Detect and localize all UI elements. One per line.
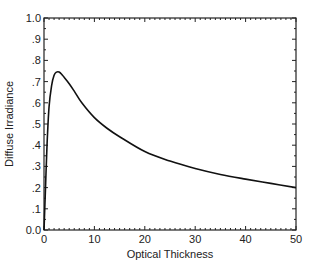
x-tick-label: 10 [88,233,100,245]
line-chart: 01020304050 0.0.1.2.3.4.5.6.7.8.91.0 Opt… [0,0,317,269]
y-tick-label: 0.0 [26,224,41,236]
y-tick-label: .2 [32,182,41,194]
y-tick-label: 1.0 [26,12,41,24]
x-tick-label: 50 [290,233,302,245]
x-tick-label: 30 [189,233,201,245]
y-axis-label: Diffuse Irradiance [3,81,15,167]
x-axis-label: Optical Thickness [127,248,214,260]
y-tick-label: .5 [32,118,41,130]
x-tick-label: 20 [139,233,151,245]
x-tick-labels: 01020304050 [41,233,302,245]
plot-frame [44,18,296,230]
y-tick-label: .4 [32,139,41,151]
y-tick-label: .8 [32,54,41,66]
y-tick-label: .9 [32,33,41,45]
x-tick-label: 0 [41,233,47,245]
y-tick-label: .1 [32,203,41,215]
y-tick-label: .6 [32,97,41,109]
data-line [44,72,296,230]
axis-ticks [44,18,296,230]
y-tick-label: .3 [32,160,41,172]
x-tick-label: 40 [239,233,251,245]
y-tick-label: .7 [32,76,41,88]
y-tick-labels: 0.0.1.2.3.4.5.6.7.8.91.0 [26,12,41,236]
